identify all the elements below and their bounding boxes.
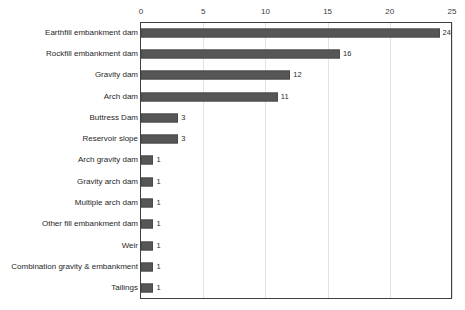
- bar-rows: Earthfill embankment dam24Rockfill emban…: [0, 22, 465, 299]
- category-label: Gravity arch dam: [77, 177, 138, 187]
- bar[interactable]: [141, 199, 153, 208]
- bar-chart: 0510152025 Earthfill embankment dam24Roc…: [0, 0, 465, 310]
- category-label: Earthfill embankment dam: [45, 28, 138, 38]
- bar[interactable]: [141, 71, 290, 80]
- category-label: Other fill embankment dam: [42, 219, 138, 229]
- bar-row: Tailings1: [0, 278, 465, 299]
- bar-value-label: 3: [181, 134, 185, 144]
- bar[interactable]: [141, 135, 178, 144]
- bar-row: Buttress Dam3: [0, 107, 465, 128]
- bar[interactable]: [141, 263, 153, 272]
- bar-value-label: 1: [156, 198, 160, 208]
- bar-value-label: 1: [156, 241, 160, 251]
- bar-value-label: 16: [343, 49, 351, 59]
- bar-row: Other fill embankment dam1: [0, 214, 465, 235]
- category-label: Arch dam: [104, 92, 138, 102]
- bar-row: Arch dam11: [0, 86, 465, 107]
- bar-value-label: 11: [281, 92, 289, 102]
- category-label: Rockfill embankment dam: [46, 49, 138, 59]
- category-label: Gravity dam: [95, 70, 138, 80]
- bar-value-label: 24: [443, 28, 451, 38]
- bar-value-label: 1: [156, 155, 160, 165]
- category-label: Tailings: [111, 283, 138, 293]
- category-label: Reservoir slope: [82, 134, 138, 144]
- bar[interactable]: [141, 49, 340, 58]
- bar-row: Gravity dam12: [0, 65, 465, 86]
- bar[interactable]: [141, 284, 153, 293]
- x-tick-label-25: 25: [448, 6, 457, 18]
- bar[interactable]: [141, 241, 153, 250]
- bar-row: Reservoir slope3: [0, 129, 465, 150]
- bar-value-label: 1: [156, 283, 160, 293]
- category-label: Weir: [122, 241, 138, 251]
- category-label: Buttress Dam: [90, 113, 138, 123]
- bar-row: Weir1: [0, 235, 465, 256]
- bar[interactable]: [141, 92, 278, 101]
- x-tick-label-10: 10: [261, 6, 270, 18]
- x-tick-label-15: 15: [323, 6, 332, 18]
- x-tick-label-20: 20: [385, 6, 394, 18]
- bar-value-label: 3: [181, 113, 185, 123]
- bar-value-label: 1: [156, 177, 160, 187]
- bar-row: Earthfill embankment dam24: [0, 22, 465, 43]
- bar-row: Arch gravity dam1: [0, 150, 465, 171]
- x-axis-tick-labels: 0510152025: [140, 6, 452, 20]
- bar[interactable]: [141, 156, 153, 165]
- x-tick-label-5: 5: [201, 6, 205, 18]
- category-label: Multiple arch dam: [75, 198, 138, 208]
- x-tick-label-0: 0: [139, 6, 143, 18]
- bar[interactable]: [141, 28, 440, 37]
- category-label: Combination gravity & embankment: [11, 262, 138, 272]
- bar-row: Combination gravity & embankment1: [0, 256, 465, 277]
- bar-row: Rockfill embankment dam16: [0, 43, 465, 64]
- bar-row: Multiple arch dam1: [0, 192, 465, 213]
- bar-value-label: 12: [293, 70, 301, 80]
- bar[interactable]: [141, 220, 153, 229]
- bar[interactable]: [141, 177, 153, 186]
- bar-value-label: 1: [156, 219, 160, 229]
- bar[interactable]: [141, 113, 178, 122]
- bar-row: Gravity arch dam1: [0, 171, 465, 192]
- bar-value-label: 1: [156, 262, 160, 272]
- category-label: Arch gravity dam: [78, 155, 138, 165]
